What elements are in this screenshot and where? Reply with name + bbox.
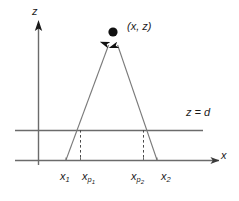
x-axis-label: x	[221, 150, 227, 161]
tick-label-x2: x2	[161, 171, 171, 184]
left-ray	[66, 45, 109, 160]
diagram-svg	[0, 0, 239, 201]
right-ray	[118, 45, 157, 160]
point-coordinate-label: (x, z)	[127, 21, 151, 32]
tick-label-xp1: xp1	[82, 171, 95, 185]
figure-canvas: z x (x, z) z = d x1 xp1 xp2 x2	[0, 0, 239, 201]
tick-label-xp1-subsub: 1	[92, 179, 95, 185]
tick-label-xp2-subsub: 2	[141, 179, 144, 185]
z-axis-label: z	[32, 6, 38, 17]
point-marker	[108, 27, 117, 36]
tick-label-xp2: xp2	[131, 171, 144, 185]
tick-label-x1-sub: 1	[66, 175, 70, 184]
tick-label-x2-sub: 2	[167, 175, 171, 184]
depth-line-label: z = d	[186, 107, 210, 118]
tick-label-x1: x1	[60, 171, 70, 184]
